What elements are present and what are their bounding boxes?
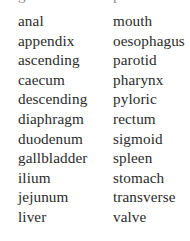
word-item: mouth: [113, 11, 190, 31]
word-item: ilium: [18, 168, 110, 188]
word-column-right: mouth oesophagus parotid pharynx pyloric…: [113, 11, 190, 227]
clipped-top-row-left-fragment: gallbladder: [18, 0, 86, 3]
word-item: valve: [113, 207, 190, 227]
word-item: transverse: [113, 187, 190, 207]
word-item: rectum: [113, 109, 190, 129]
clipped-top-row-right-fragment: pancreas: [113, 0, 166, 3]
word-column-left: anal appendix ascending caecum descendin…: [18, 11, 110, 227]
word-item: pyloric: [113, 89, 190, 109]
word-item: jejunum: [18, 187, 110, 207]
clipped-top-row: gallbladder pancreas: [0, 0, 190, 3]
word-item: duodenum: [18, 129, 110, 149]
word-item: gallbladder: [18, 148, 110, 168]
word-list-page: gallbladder pancreas anal appendix ascen…: [0, 0, 190, 241]
word-item: caecum: [18, 70, 110, 90]
word-item: descending: [18, 89, 110, 109]
word-item: anal: [18, 11, 110, 31]
word-item: ascending: [18, 50, 110, 70]
word-item: oesophagus: [113, 31, 190, 51]
word-item: stomach: [113, 168, 190, 188]
word-item: spleen: [113, 148, 190, 168]
word-item: sigmoid: [113, 129, 190, 149]
word-item: pharynx: [113, 70, 190, 90]
word-item: parotid: [113, 50, 190, 70]
word-item: appendix: [18, 31, 110, 51]
word-item: diaphragm: [18, 109, 110, 129]
word-item: liver: [18, 207, 110, 227]
